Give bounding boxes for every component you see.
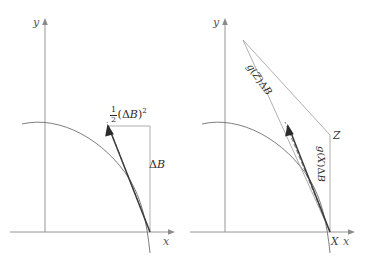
diagram-panel-right: X Z x y (185, 0, 369, 271)
y-axis-arrowhead (222, 18, 228, 25)
y-axis-left (42, 18, 48, 232)
y-axis-arrowhead (42, 18, 48, 25)
label-half-delta-b-squared: 1 2 (ΔB)2 (110, 106, 147, 124)
delta-symbol: Δ (316, 167, 327, 174)
point-label-z: Z (332, 129, 341, 141)
fraction-denominator: 2 (110, 116, 117, 124)
figure-root: x y X Z x y (0, 0, 369, 271)
x-axis-arrowhead (348, 229, 355, 235)
x-axis-label: x (343, 235, 350, 248)
x-axis-label: x (163, 235, 170, 248)
point-label-x: X (330, 235, 339, 247)
variable-b: B (316, 175, 327, 182)
exponent-two: 2 (142, 107, 146, 115)
concave-curve (22, 122, 150, 253)
chord-arrow (105, 124, 150, 232)
variable-b: B (157, 158, 165, 171)
triangle-upper-right-edge (243, 40, 330, 135)
concave-curve (202, 122, 330, 253)
delta-symbol: Δ (122, 108, 130, 121)
label-g-of-x-delta-b: g(X)ΔB (316, 146, 326, 182)
chord-line (111, 132, 151, 233)
delta-symbol: Δ (149, 158, 157, 171)
diagram-panel-left: x y (0, 0, 185, 271)
x-axis-arrowhead (168, 229, 175, 235)
variable-b: B (130, 108, 138, 121)
label-delta-b: ΔB (149, 159, 165, 170)
fraction-one-half: 1 2 (110, 106, 117, 124)
y-axis-right (222, 18, 228, 232)
fraction-numerator: 1 (110, 106, 117, 114)
y-axis-label: y (32, 16, 40, 29)
y-axis-label: y (212, 16, 220, 29)
